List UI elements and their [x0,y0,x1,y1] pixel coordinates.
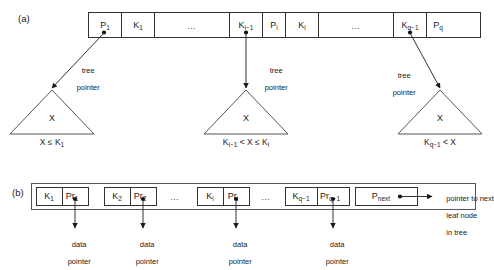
data-pointer-label-1-line2: pointer [68,257,91,266]
cell-k1: K1 [133,20,143,30]
data-pointer-label-1-line1: data [72,240,87,249]
leaf-key-3-sub: i [212,195,213,202]
leaf-ptr-4-text: Pr [320,191,329,201]
subtree-label-3: X [437,113,443,123]
tree-pointer-label-1: tree pointer [68,58,99,101]
cell-k1-sub: 1 [139,24,143,31]
tree-pointer-label-1-line1: tree [82,66,95,75]
data-pointer-label-3: data pointer [220,232,251,270]
cell-ellipsis-2: … [351,21,361,31]
next-leaf-annotation-line1: pointer to next [446,194,494,203]
leaf-key-2: K2 [112,191,122,201]
tree-pointer-label-1-line2: pointer [77,83,100,92]
cell-ellipsis-1: … [187,21,197,31]
leaf-ellipsis-2: … [261,192,271,202]
tree-pointer-label-3-line1: tree [398,71,411,80]
leaf-ptr-3: Pri [228,191,238,201]
next-leaf-annotation-line2: leaf node [446,211,477,220]
leaf-ptr-2-sub: 2 [143,195,147,202]
cell-kq-minus-1: Kq−1 [401,20,418,30]
data-pointer-label-3-line1: data [233,240,248,249]
data-pointer-label-4-line2: pointer [326,257,349,266]
leaf-key-4: Kq−1 [292,191,309,201]
cell-pi: Pi [270,20,277,30]
tree-pointer-label-3: tree pointer [384,63,415,106]
leaf-key-2-sub: 2 [118,195,122,202]
internal-pointer-dots [102,30,412,34]
leaf-key-3: Ki [206,191,213,201]
data-pointer-label-2: data pointer [127,232,158,270]
leaf-ptr-3-sub: i [237,195,238,202]
tree-pointer-label-2-line1: tree [270,66,283,75]
internal-node-box [89,13,481,38]
leaf-ptr-3-text: Pr [228,191,237,201]
data-pointer-label-4-line1: data [330,240,345,249]
data-pointer-label-2-line2: pointer [136,257,159,266]
tree-pointer-label-2-line2: pointer [265,83,288,92]
leaf-ptr-2: Pr2 [134,191,147,201]
leaf-key-1-sub: 1 [50,195,54,202]
cell-p1: P1 [100,20,110,30]
cell-p1-sub: 1 [106,24,110,31]
leaf-ptr-4: Prq−1 [320,191,340,201]
leaf-key-4-sub: q−1 [298,195,309,202]
leaf-ptr-1-sub: 1 [75,195,79,202]
cell-pi-sub: i [276,24,277,31]
leaf-ptr-1: Pr1 [66,191,79,201]
subtree-condition-1: X ≤ K1 [40,137,64,147]
next-leaf-annotation: pointer to next leaf node in tree [438,186,494,246]
subtree-label-2: X [243,113,249,123]
leaf-ptr-2-text: Pr [134,191,143,201]
cell-ki-minus-1-sub: i−1 [245,24,254,31]
leaf-next-pointer-cell: Pnext [372,191,390,201]
leaf-ellipsis-1: … [170,192,180,202]
panel-label-b: (b) [12,187,24,198]
leaf-key-1: K1 [44,191,54,201]
data-pointer-label-3-line2: pointer [229,257,252,266]
data-pointer-label-4: data pointer [317,232,348,270]
cell-kq-minus-1-sub: q−1 [407,24,418,31]
data-pointer-label-1: data pointer [59,232,90,270]
cell-pq: Pq [433,20,443,30]
subtree-condition-3: Kq−1 < X [424,137,456,147]
subtree-label-1: X [49,113,55,123]
data-pointer-label-2-line1: data [140,240,155,249]
leaf-next-pointer-sub: next [378,195,390,202]
panel-label-a: (a) [18,13,30,24]
cell-pq-sub: q [439,24,443,31]
tree-pointer-label-2: tree pointer [256,58,287,101]
cell-ki-sub: i [304,24,305,31]
next-leaf-annotation-line3: in tree [446,228,467,237]
tree-pointer-label-3-line2: pointer [393,88,416,97]
cell-ki: Ki [298,20,305,30]
leaf-ptr-4-sub: q−1 [329,195,340,202]
cell-ki-minus-1: Ki−1 [239,20,254,30]
leaf-ptr-1-text: Pr [66,191,75,201]
subtree-condition-2: Ki−1 < X ≤ Ki [223,137,269,147]
